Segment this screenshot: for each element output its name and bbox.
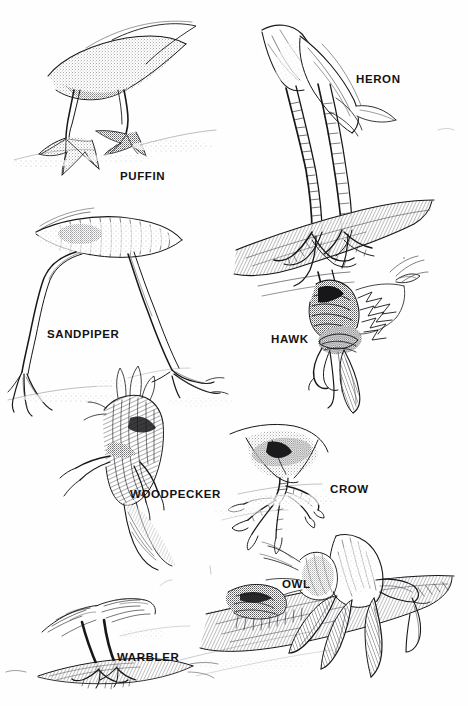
label-sandpiper: SANDPIPER xyxy=(47,328,120,341)
label-hawk: HAWK xyxy=(271,333,309,346)
label-heron: HERON xyxy=(356,73,401,86)
label-puffin: PUFFIN xyxy=(120,170,165,183)
label-warbler: WARBLER xyxy=(117,651,179,664)
label-crow: CROW xyxy=(330,483,369,496)
bird-feet-plate xyxy=(0,0,468,706)
label-owl: OWL xyxy=(282,578,311,591)
label-woodpecker: WOODPECKER xyxy=(130,488,221,501)
